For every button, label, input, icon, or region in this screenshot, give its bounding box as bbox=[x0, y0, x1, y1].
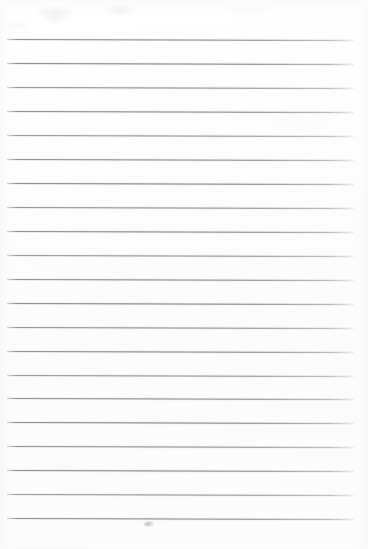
ruled-line bbox=[7, 494, 354, 496]
ruled-line bbox=[7, 446, 354, 448]
ruled-line bbox=[7, 39, 354, 41]
ruled-lines-layer bbox=[0, 0, 368, 549]
ruled-line bbox=[7, 327, 354, 329]
ruled-line bbox=[7, 207, 354, 209]
ruled-line bbox=[7, 87, 354, 89]
ruled-line bbox=[7, 375, 354, 377]
ruled-line bbox=[7, 398, 354, 400]
ruled-line bbox=[7, 422, 354, 424]
ruled-line bbox=[7, 135, 354, 137]
ruled-line bbox=[7, 255, 354, 257]
ruled-line bbox=[7, 470, 354, 472]
ruled-line bbox=[7, 63, 354, 65]
ruled-line bbox=[7, 159, 354, 161]
ruled-line bbox=[7, 518, 354, 520]
ruled-line bbox=[7, 183, 354, 185]
ruled-line bbox=[7, 303, 354, 305]
ruled-line bbox=[7, 351, 354, 353]
ruled-line bbox=[7, 231, 354, 233]
ruled-line bbox=[7, 279, 354, 281]
ruled-line bbox=[7, 111, 354, 113]
scanned-page bbox=[0, 0, 368, 549]
